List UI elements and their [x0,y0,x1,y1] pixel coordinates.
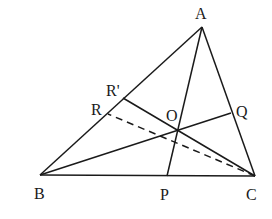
label-R: R [91,101,102,118]
segment-AB [40,27,202,175]
segment-AP [167,27,202,176]
label-P: P [160,186,169,203]
segment-BC [40,175,255,176]
label-A: A [195,5,207,22]
segment-CA [202,27,255,176]
label-R-prime: R' [106,82,120,99]
label-C: C [246,186,257,203]
geometry-diagram: A B C P Q R' R O [0,0,272,219]
label-O: O [166,107,178,124]
label-B: B [34,185,45,202]
label-Q: Q [236,103,248,120]
segment-BQ [40,113,231,175]
